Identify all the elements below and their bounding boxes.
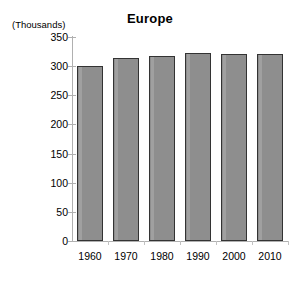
bar-chart-figure: (Thousands) Europe 050100150200250300350… xyxy=(0,0,300,281)
y-tick-label: 50 xyxy=(56,206,68,218)
bar-highlight xyxy=(115,59,118,240)
x-tick-label-2000: 2000 xyxy=(216,250,252,262)
bar-highlight xyxy=(259,55,262,240)
x-tick-label-1980: 1980 xyxy=(144,250,180,262)
bar-1990 xyxy=(185,53,211,241)
bar-2000 xyxy=(221,54,247,241)
x-tick-mark xyxy=(180,241,181,245)
x-tick-mark xyxy=(288,241,289,245)
y-tick-mark xyxy=(68,241,76,242)
x-tick-label-2010: 2010 xyxy=(252,250,288,262)
y-tick-label: 200 xyxy=(50,118,68,130)
x-tick-label-1960: 1960 xyxy=(72,250,108,262)
y-tick-label: 250 xyxy=(50,89,68,101)
y-tick-label: 300 xyxy=(50,60,68,72)
bar-highlight xyxy=(223,55,226,240)
x-tick-mark xyxy=(144,241,145,245)
y-tick-label: 150 xyxy=(50,148,68,160)
x-tick-mark xyxy=(252,241,253,245)
bar-1970 xyxy=(113,58,139,241)
chart-title: Europe xyxy=(0,11,300,26)
x-tick-label-1990: 1990 xyxy=(180,250,216,262)
x-tick-label-1970: 1970 xyxy=(108,250,144,262)
bar-highlight xyxy=(151,57,154,240)
bar-2010 xyxy=(257,54,283,241)
bar-1980 xyxy=(149,56,175,241)
x-tick-mark xyxy=(216,241,217,245)
bar-1960 xyxy=(77,66,103,241)
y-tick-label: 350 xyxy=(50,31,68,43)
plot-area xyxy=(72,37,288,241)
bar-highlight xyxy=(79,67,82,240)
x-tick-mark xyxy=(108,241,109,245)
y-tick-label: 100 xyxy=(50,177,68,189)
bar-highlight xyxy=(187,54,190,240)
